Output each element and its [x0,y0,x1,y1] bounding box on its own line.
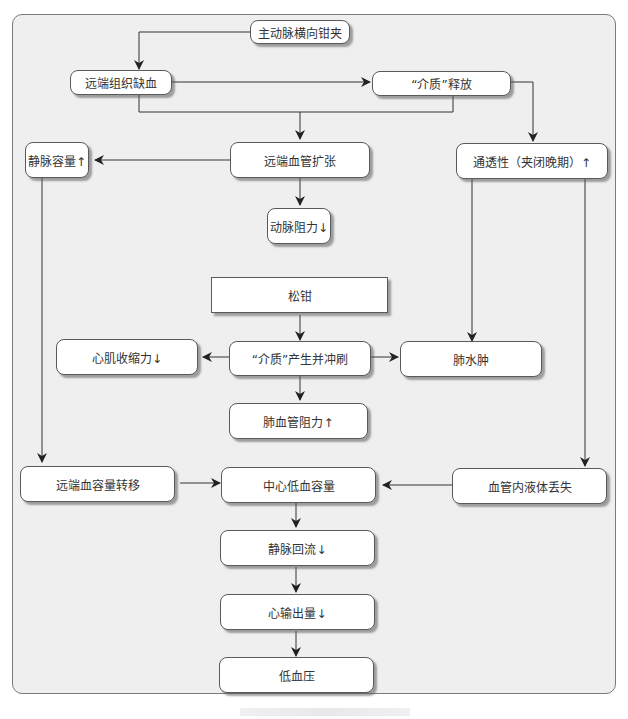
node-venous-capacity: 静脉容量↑ [25,142,89,178]
node-pulmonary-edema: 肺水肿 [400,341,542,377]
node-arterial-resistance: 动脉阻力↓ [267,208,331,244]
node-distal-volume-shift: 远端血容量转移 [20,466,175,502]
node-intravascular-fluid-loss: 血管内液体丢失 [452,468,607,504]
node-aortic-clamp: 主动脉横向钳夹 [250,20,350,44]
figure-caption-cutoff [240,708,410,716]
node-pulmonary-vascular-resistance: 肺血管阻力↑ [229,403,368,439]
node-unclamp: 松钳 [211,277,388,313]
node-myocardial-contractility: 心肌收缩力↓ [56,339,198,375]
node-cardiac-output: 心输出量↓ [220,594,375,630]
node-mediator-release: “介质”释放 [372,71,511,96]
node-central-hypovolemia: 中心低血容量 [221,467,376,503]
node-venous-return: 静脉回流↓ [220,530,375,566]
node-distal-vasodilation: 远端血管扩张 [230,142,370,178]
node-mediator-washout: “介质”产生并冲刷 [229,341,371,376]
node-permeability: 通透性（夹闭晚期）↑ [456,143,608,179]
node-distal-ischemia: 远端组织缺血 [70,70,172,95]
node-hypotension: 低血压 [219,657,374,693]
